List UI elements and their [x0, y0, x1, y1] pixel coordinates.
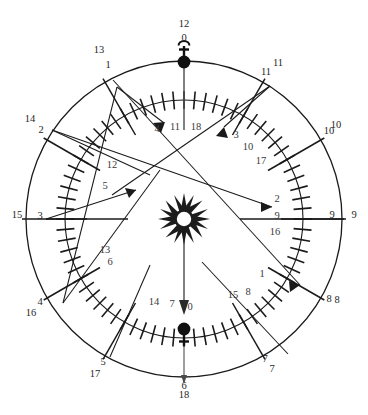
tick-mark	[111, 309, 121, 324]
venus-symbol	[178, 323, 191, 346]
innerLabel-0: 4	[154, 123, 160, 134]
ringLabel-3: 3	[37, 210, 42, 221]
sight-line-3-to-inner	[46, 190, 136, 219]
innerLabel-8: 16	[270, 226, 281, 237]
tick-mark	[173, 329, 175, 347]
ringLabel-6: 6	[181, 380, 186, 391]
tick-mark	[230, 319, 238, 335]
astronomical-diagram: 121311141015916817718 01234567891011 411…	[0, 0, 368, 415]
innerLabel-1: 11	[170, 121, 180, 132]
innerLabel-2: 18	[191, 121, 202, 132]
tick-mark	[284, 165, 300, 173]
ringLabel-11: 11	[261, 66, 271, 77]
tick-mark	[287, 257, 304, 263]
ringLabel-8: 8	[326, 293, 331, 304]
ringLabel-5: 5	[100, 356, 105, 367]
tick-mark	[86, 290, 100, 302]
sight-line-1-to-16	[63, 87, 117, 303]
innerLabel-13: 7	[169, 298, 174, 309]
sight-line-7-chord	[202, 262, 288, 354]
outerLabel-10: 7	[269, 363, 274, 374]
sun-symbol	[158, 193, 210, 245]
tick-mark	[255, 121, 267, 135]
diagram-stage: 121311141015916817718 01234567891011 411…	[0, 0, 368, 415]
outerLabel-8: 8	[334, 294, 339, 305]
mercury-symbol	[178, 41, 191, 69]
arrowhead-to-2	[261, 202, 272, 212]
tick-mark	[173, 91, 175, 109]
outerLabel-7: 16	[26, 307, 37, 318]
sight-line-13-to-8	[113, 80, 300, 285]
tick-mark	[274, 282, 289, 292]
innerLabel-6: 2	[274, 193, 279, 204]
tick-mark	[56, 208, 74, 210]
outerLabel-5: 15	[12, 209, 23, 220]
tick-mark	[79, 146, 94, 156]
outerLabel-3: 14	[25, 113, 36, 124]
outerLabel-6: 9	[351, 209, 356, 220]
sight-line-17-chord	[110, 265, 150, 357]
tick-mark	[130, 319, 138, 335]
sight-line-2-to-2	[52, 130, 272, 207]
sight-line-arrowheads	[125, 122, 300, 292]
ringLabel-0: 0	[181, 32, 186, 43]
outerLabel-0: 12	[179, 18, 190, 29]
tick-mark	[79, 282, 94, 292]
ringLabel-10: 10	[324, 125, 335, 136]
arrowhead-to-3	[216, 127, 228, 138]
tick-mark	[268, 290, 282, 302]
ringLabel-7: 7	[262, 353, 267, 364]
outerLabel-2: 11	[273, 57, 283, 68]
sight-line-11-to-3	[224, 86, 270, 127]
tick-mark	[68, 165, 84, 173]
innerLabel-10: 8	[245, 286, 250, 297]
innerLabel-7: 9	[274, 210, 279, 221]
tick-mark	[287, 175, 304, 181]
tick-mark	[194, 329, 196, 347]
tick-mark	[102, 303, 114, 317]
tick-mark	[194, 91, 196, 109]
tick-mark	[274, 146, 289, 156]
outerLabel-1: 13	[94, 44, 105, 55]
inner-label-group: 4111831017291618150714613512	[100, 121, 281, 312]
tick-mark	[140, 322, 146, 339]
innerLabel-3: 3	[233, 129, 238, 140]
innerLabel-11: 15	[228, 289, 239, 300]
innerLabel-9: 1	[259, 268, 264, 279]
innerLabel-12: 0	[187, 301, 192, 312]
innerLabel-5: 17	[256, 155, 267, 166]
tick-mark	[268, 137, 282, 149]
innerLabel-17: 5	[102, 180, 107, 191]
innerLabel-18: 12	[107, 159, 118, 170]
innerLabel-4: 10	[243, 141, 254, 152]
ringLabel-9: 9	[329, 209, 334, 220]
tick-mark	[64, 257, 81, 263]
innerLabel-14: 14	[149, 296, 160, 307]
ringLabel-4: 4	[37, 296, 43, 307]
tick-mark	[247, 114, 257, 129]
tick-mark	[56, 229, 74, 231]
innerLabel-15: 6	[107, 256, 112, 267]
innerLabel-16: 13	[100, 244, 111, 255]
tick-mark	[294, 208, 312, 210]
outerLabel-9: 17	[90, 368, 101, 379]
tick-mark	[294, 229, 312, 231]
tick-mark	[111, 114, 121, 129]
tick-mark	[64, 175, 81, 181]
ringLabel-2: 2	[38, 124, 43, 135]
tick-mark	[255, 303, 267, 317]
tick-mark	[222, 322, 228, 339]
ringLabel-1: 1	[105, 59, 110, 70]
tick-mark	[222, 99, 228, 116]
